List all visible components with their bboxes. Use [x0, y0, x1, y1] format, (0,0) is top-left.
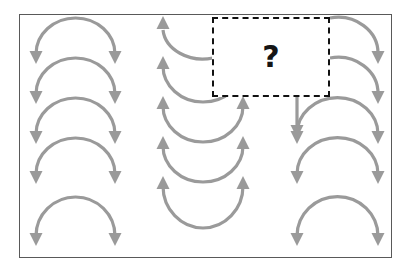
puzzle-frame	[19, 14, 392, 258]
missing-tile[interactable]: ?	[212, 17, 330, 97]
puzzle-stage: ?	[0, 0, 409, 273]
missing-tile-question-mark: ?	[262, 42, 279, 72]
